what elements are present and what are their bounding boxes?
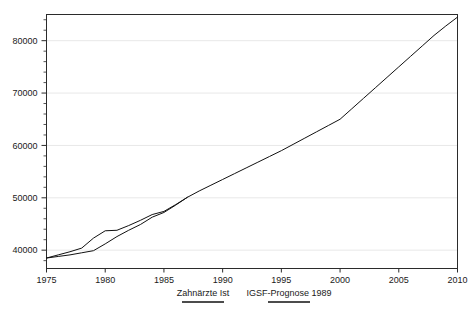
x-axis-tick-label: 2005 — [389, 275, 409, 285]
chart-container: 4000050000600007000080000 19751980198519… — [0, 0, 476, 315]
x-axis-tick-label: 2010 — [447, 275, 467, 285]
y-axis-tick-label: 60000 — [12, 141, 37, 151]
y-axis-tick-label: 40000 — [12, 245, 37, 255]
y-axis-tick-label: 70000 — [12, 88, 37, 98]
x-axis-tick-label: 1980 — [95, 275, 115, 285]
x-axis-tick-label: 1975 — [36, 275, 56, 285]
legend-label: IGSF-Prognose 1989 — [246, 288, 331, 298]
x-axis-tick-label: 1990 — [213, 275, 233, 285]
legend-label: Zahnärzte Ist — [177, 288, 230, 298]
y-axis-tick-label: 50000 — [12, 193, 37, 203]
chart-background — [0, 0, 476, 315]
line-chart: 4000050000600007000080000 19751980198519… — [0, 0, 476, 315]
x-axis-tick-label: 2000 — [330, 275, 350, 285]
y-axis-tick-label: 80000 — [12, 36, 37, 46]
x-axis-tick-label: 1985 — [154, 275, 174, 285]
x-axis-tick-label: 1995 — [271, 275, 291, 285]
